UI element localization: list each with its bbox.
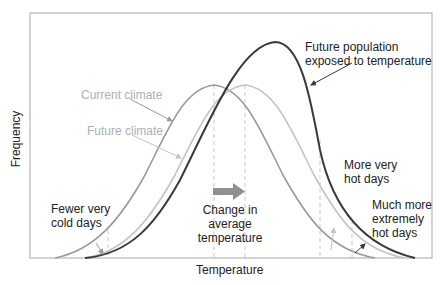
label-future-population-line2: exposed to temperature — [305, 54, 432, 68]
extreme-hot-tail-arrow — [355, 244, 365, 253]
y-axis-label: Frequency — [9, 109, 23, 169]
label-current-climate: Current climate — [81, 88, 162, 102]
label-future-population-line1: Future population — [305, 40, 398, 54]
label-more-hot-days: More very hot days — [344, 158, 397, 186]
future-climate-pointer-arrow — [132, 135, 181, 158]
label-future-climate: Future climate — [87, 124, 163, 138]
x-axis-label: Temperature — [196, 263, 263, 277]
label-fewer-cold-days: Fewer very cold days — [51, 202, 110, 230]
label-change-average-temperature: Change in average temperature — [186, 203, 274, 245]
label-much-more-extremely-hot-days: Much more extremely hot days — [372, 198, 432, 240]
shift-arrow-icon — [213, 183, 245, 200]
current-climate-pointer-arrow — [130, 99, 172, 121]
cold-tail-arrow — [96, 243, 103, 254]
